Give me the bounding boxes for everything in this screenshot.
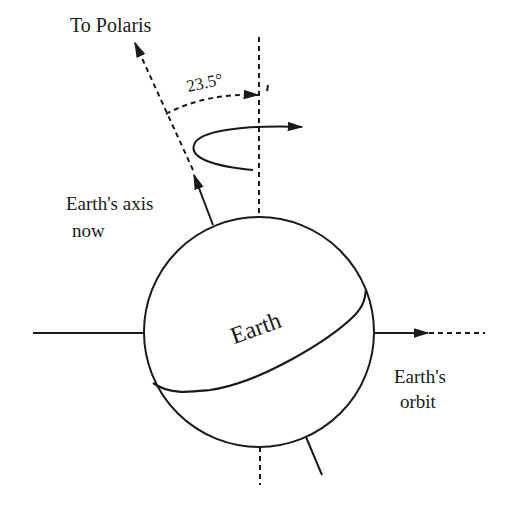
tilted-axis-bottom: [306, 437, 322, 475]
label-axis-now-2: now: [72, 220, 105, 241]
label-orbit-1: Earth's: [394, 366, 446, 387]
label-angle: 23.5°: [185, 70, 225, 96]
label-to-polaris: To Polaris: [70, 14, 152, 36]
earth-axis-now-arrow: [194, 175, 213, 225]
precession-loop-arrow: [193, 127, 302, 170]
angle-tick: [267, 85, 268, 91]
precession-diagram: To Polaris 23.5° Earth's axis now Earth …: [0, 0, 505, 508]
diagram-canvas: To Polaris 23.5° Earth's axis now Earth …: [0, 0, 505, 508]
label-axis-now-1: Earth's axis: [66, 193, 153, 214]
label-orbit-2: orbit: [400, 391, 437, 412]
angle-arc: [166, 95, 258, 114]
